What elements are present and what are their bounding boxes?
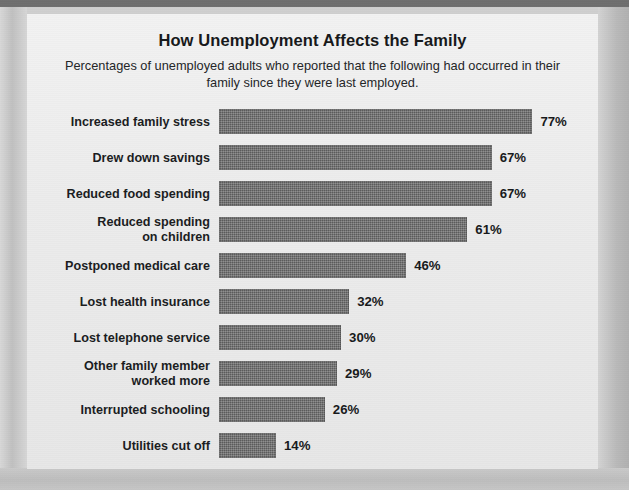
- chart-header: How Unemployment Affects the Family Perc…: [27, 14, 598, 92]
- bar-track: 32%: [219, 284, 598, 320]
- bar: [219, 181, 492, 206]
- bar-chart-row: Drew down savings67%: [33, 140, 598, 176]
- bar: [219, 109, 532, 134]
- bar-track: 26%: [219, 392, 598, 428]
- page-right-gutter-shadow: [598, 7, 629, 490]
- bar-category-label: Other family memberworked more: [33, 359, 219, 388]
- bar-category-label: Reduced spendingon children: [33, 215, 219, 244]
- bar: [219, 217, 467, 242]
- bar-track: 67%: [219, 176, 598, 212]
- bar: [219, 253, 406, 278]
- bar-chart-row: Other family memberworked more29%: [33, 356, 598, 392]
- bar-track: 14%: [219, 428, 598, 464]
- bar-value-label: 30%: [349, 330, 375, 345]
- chart-title: How Unemployment Affects the Family: [27, 31, 598, 50]
- bar-value-label: 46%: [414, 258, 440, 273]
- page-bottom-shadow: [0, 468, 629, 490]
- bar: [219, 145, 492, 170]
- bar: [219, 397, 325, 422]
- chart-subtitle: Percentages of unemployed adults who rep…: [27, 57, 598, 92]
- bar-chart-row: Lost telephone service30%: [33, 320, 598, 356]
- bar-value-label: 29%: [345, 366, 371, 381]
- scanned-page: How Unemployment Affects the Family Perc…: [0, 0, 629, 490]
- bar-track: 77%: [219, 104, 598, 140]
- bar-track: 29%: [219, 356, 598, 392]
- bar-category-label: Reduced food spending: [33, 187, 219, 201]
- bar-category-label: Utilities cut off: [33, 439, 219, 453]
- bar-category-label: Postponed medical care: [33, 259, 219, 273]
- bar-value-label: 67%: [500, 186, 526, 201]
- bar-value-label: 67%: [500, 150, 526, 165]
- bar-category-label: Interrupted schooling: [33, 403, 219, 417]
- bar: [219, 325, 341, 350]
- bar-category-label: Lost telephone service: [33, 331, 219, 345]
- bar-chart-row: Interrupted schooling26%: [33, 392, 598, 428]
- page-left-gutter-shadow: [0, 7, 27, 490]
- bar: [219, 361, 337, 386]
- chart-panel: How Unemployment Affects the Family Perc…: [27, 14, 598, 469]
- bar: [219, 433, 276, 458]
- bar-track: 30%: [219, 320, 598, 356]
- bar-value-label: 14%: [284, 438, 310, 453]
- bar-value-label: 32%: [357, 294, 383, 309]
- bar-chart-row: Utilities cut off14%: [33, 428, 598, 464]
- bar: [219, 289, 349, 314]
- bar-chart-row: Postponed medical care46%: [33, 248, 598, 284]
- bar-chart-row: Reduced spendingon children61%: [33, 212, 598, 248]
- bar-chart-row: Lost health insurance32%: [33, 284, 598, 320]
- page-top-edge-shadow: [0, 0, 629, 7]
- bar-value-label: 77%: [540, 114, 566, 129]
- bar-value-label: 61%: [475, 222, 501, 237]
- bar-chart-row: Increased family stress77%: [33, 104, 598, 140]
- bar-track: 67%: [219, 140, 598, 176]
- bar-category-label: Increased family stress: [33, 115, 219, 129]
- bar-track: 61%: [219, 212, 598, 248]
- bar-category-label: Drew down savings: [33, 151, 219, 165]
- bar-track: 46%: [219, 248, 598, 284]
- bar-chart-row: Reduced food spending67%: [33, 176, 598, 212]
- bar-category-label: Lost health insurance: [33, 295, 219, 309]
- bar-value-label: 26%: [333, 402, 359, 417]
- bar-chart-plot-area: Increased family stress77%Drew down savi…: [27, 104, 598, 464]
